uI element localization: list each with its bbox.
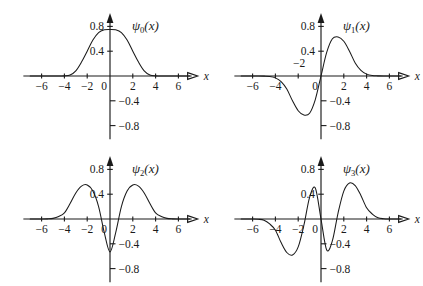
x-tick-label: 4 — [364, 223, 370, 235]
y-tick-label: −0.8 — [119, 263, 140, 275]
x-tick-label: −2 — [81, 223, 93, 235]
x-tick-label: 4 — [364, 80, 370, 92]
y-tick-label: −0.8 — [330, 263, 351, 275]
y-tick-label: −0.8 — [119, 120, 140, 132]
x-tick-label: 2 — [130, 223, 136, 235]
y-tick-label: −0.4 — [330, 95, 351, 107]
x-axis-label: x — [414, 213, 421, 225]
x-tick-label: −6 — [35, 223, 47, 235]
x-tick-label: 6 — [387, 223, 393, 235]
y-tick-label: −0.4 — [119, 238, 140, 250]
x-tick-label: −6 — [35, 80, 47, 92]
y-tick-label: −0.8 — [330, 120, 351, 132]
x-tick-label: −4 — [58, 80, 70, 92]
y-tick-label: 0.4 — [301, 45, 316, 57]
curve-label: ψ2(x) — [132, 161, 159, 178]
plot-panel-psi0: −6−4−202460.80.4−0.4−0.8xψ0(x) — [0, 0, 211, 143]
x-tick-label: −4 — [269, 80, 281, 92]
plot-panel-psi1: −6−4−202460.80.4−0.4−0.8xψ1(x) — [211, 0, 422, 143]
x-tick-label: −6 — [246, 223, 258, 235]
x-tick-label: −4 — [58, 223, 70, 235]
y-tick-label: 0.8 — [301, 163, 316, 175]
plot-panel-psi2: −6−4−202460.80.4−0.4−0.8xψ2(x) — [0, 143, 211, 286]
x-tick-label: −2 — [293, 57, 305, 69]
x-tick-label: 6 — [176, 223, 182, 235]
x-axis-label: x — [203, 213, 210, 225]
x-tick-label: 2 — [130, 80, 136, 92]
curve-label: ψ1(x) — [343, 18, 370, 35]
x-axis-label: x — [203, 70, 210, 82]
x-tick-label: 6 — [387, 80, 393, 92]
y-tick-label: 0.8 — [301, 20, 316, 32]
x-tick-label: 0 — [101, 80, 107, 92]
x-tick-label: 4 — [153, 223, 159, 235]
y-tick-label: 0.4 — [301, 188, 316, 200]
y-tick-label: −0.4 — [119, 95, 140, 107]
y-tick-label: 0.4 — [90, 45, 105, 57]
wavefunction-figure: −6−4−202460.80.4−0.4−0.8xψ0(x)−6−4−20246… — [0, 0, 423, 286]
x-tick-label: −6 — [246, 80, 258, 92]
x-tick-label: 2 — [341, 223, 347, 235]
curve-label: ψ3(x) — [343, 161, 370, 178]
x-tick-label: −2 — [81, 80, 93, 92]
y-tick-label: 0.8 — [90, 163, 105, 175]
plot-panel-psi3: −6−4−202460.80.4−0.4−0.8xψ3(x) — [211, 143, 422, 286]
x-tick-label: 0 — [312, 223, 318, 235]
curve-label: ψ0(x) — [132, 18, 159, 35]
x-tick-label: 6 — [176, 80, 182, 92]
x-axis-label: x — [414, 70, 421, 82]
x-tick-label: 4 — [153, 80, 159, 92]
x-tick-label: 2 — [341, 80, 347, 92]
